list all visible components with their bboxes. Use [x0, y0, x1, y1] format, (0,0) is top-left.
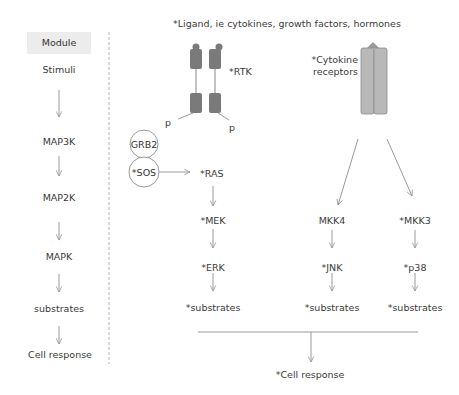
- p38-substrates-node: *substrates: [388, 302, 443, 313]
- cytokine-label-line2: receptors: [306, 66, 358, 77]
- jnk-substrates-node: *substrates: [305, 302, 360, 313]
- p38-node: *p38: [404, 262, 427, 273]
- erk-node: *ERK: [201, 262, 225, 273]
- final-cell-response: *Cell response: [276, 369, 345, 380]
- jnk-node: *JNK: [322, 262, 343, 273]
- ras-node: *RAS: [200, 168, 224, 179]
- rtk-label: *RTK: [229, 66, 252, 77]
- cytokine-label-line1: *Cytokine: [306, 54, 358, 65]
- grb2-label: GRB2: [131, 139, 158, 150]
- mkk3-node: *MKK3: [399, 215, 430, 226]
- phospho-left: p: [165, 117, 171, 128]
- mek-node: *MEK: [200, 215, 225, 226]
- rtk-receptor-icon: [178, 44, 229, 121]
- ligand-note: *Ligand, ie cytokines, growth factors, h…: [173, 18, 401, 29]
- sos-label: *SOS: [132, 167, 156, 178]
- erk-substrates-node: *substrates: [186, 302, 241, 313]
- pathway-diagram: [0, 0, 459, 395]
- cytokine-receptor-icon: [361, 42, 387, 114]
- mkk4-node: MKK4: [319, 215, 346, 226]
- phospho-right: p: [229, 122, 235, 133]
